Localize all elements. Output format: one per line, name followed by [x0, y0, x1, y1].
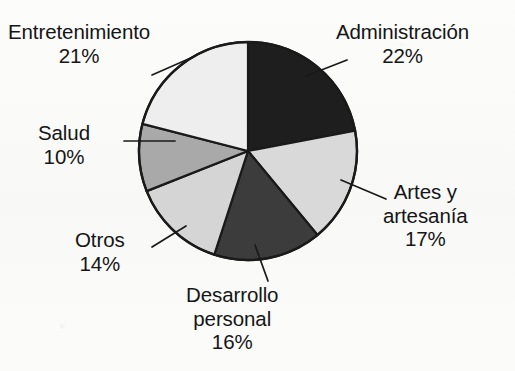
pie-label-otros-value: 14% [75, 252, 125, 276]
pie-label-entretenimiento: Entretenimiento 21% [8, 20, 150, 67]
pie-label-entretenimiento-name: Entretenimiento [8, 20, 150, 44]
pie-label-administracion: Administración 22% [336, 20, 469, 67]
pie-label-artes-line2: artesanía [383, 204, 468, 228]
pie-label-salud: Salud 10% [38, 121, 90, 168]
pie-chart-figure: Entretenimiento 21% Administración 22% A… [0, 0, 515, 371]
pie-label-administracion-value: 22% [336, 44, 469, 68]
pie-label-desarrollo-line2: personal [186, 307, 278, 331]
pie-label-desarrollo-personal: Desarrollo personal 16% [186, 283, 278, 354]
pie-label-artes-y-artesania: Artes y artesanía 17% [383, 180, 468, 251]
pie-label-otros-name: Otros [75, 228, 125, 252]
pie-label-artes-line1: Artes y [383, 180, 468, 204]
pie-label-artes-value: 17% [383, 227, 468, 251]
pie-label-administracion-name: Administración [336, 20, 469, 44]
pie-label-salud-value: 10% [38, 145, 90, 169]
pie-label-entretenimiento-value: 21% [8, 44, 150, 68]
pie-label-desarrollo-line1: Desarrollo [186, 283, 278, 307]
pie-label-salud-name: Salud [38, 121, 90, 145]
pie-label-desarrollo-value: 16% [186, 330, 278, 354]
pie-label-otros: Otros 14% [75, 228, 125, 275]
